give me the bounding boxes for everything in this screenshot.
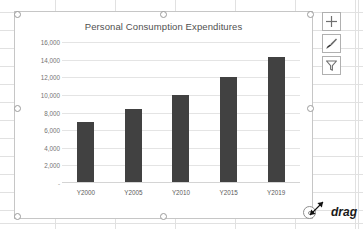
bar-slot [62, 42, 110, 183]
plus-icon [325, 15, 338, 28]
brush-icon [325, 37, 338, 50]
x-tick-label-y2000: Y2000 [62, 189, 110, 201]
drag-annotation-label: drag [331, 205, 357, 219]
y-tick-label: 16,000 [41, 39, 60, 46]
x-tick-label-y2010: Y2010 [157, 189, 205, 201]
resize-handle-middle-right[interactable] [307, 105, 314, 112]
y-tick-label: 6,000 [44, 127, 60, 134]
bar-slot [252, 42, 300, 183]
bar-slot [205, 42, 253, 183]
funnel-icon [325, 59, 338, 72]
bar-y2019[interactable] [268, 57, 285, 183]
y-tick-label: 8,000 [44, 109, 60, 116]
chart-side-buttons [322, 12, 342, 78]
x-axis-line [62, 182, 300, 183]
x-tick-label-y2019: Y2019 [252, 189, 300, 201]
chart-title: Personal Consumption Expenditures [15, 21, 312, 32]
screenshot-root: Personal Consumption Expenditures 16,000… [0, 0, 363, 229]
x-tick-label-y2015: Y2015 [205, 189, 253, 201]
x-tick-label-y2005: Y2005 [110, 189, 158, 201]
resize-handle-top-center[interactable] [160, 11, 167, 18]
resize-diagonal-cursor [306, 198, 330, 222]
chart-styles-button[interactable] [322, 34, 341, 53]
bar-slot [110, 42, 158, 183]
plot-area[interactable] [62, 42, 300, 183]
bar-y2015[interactable] [220, 77, 237, 183]
x-axis-labels: Y2000 Y2005 Y2010 Y2015 Y2019 [62, 189, 300, 201]
resize-handle-bottom-left[interactable] [14, 213, 21, 220]
bar-y2010[interactable] [172, 95, 189, 183]
y-tick-label: 14,000 [41, 56, 60, 63]
y-tick-label: 4,000 [44, 144, 60, 151]
chart-object[interactable]: Personal Consumption Expenditures 16,000… [14, 11, 313, 219]
resize-handle-top-left[interactable] [14, 11, 21, 18]
chart-filters-button[interactable] [322, 56, 341, 75]
y-tick-label: 12,000 [41, 74, 60, 81]
resize-handle-top-right[interactable] [307, 11, 314, 18]
y-axis-labels: 16,000 14,000 12,000 10,000 8,000 6,000 … [21, 42, 60, 183]
y-tick-label: - [58, 180, 60, 187]
bar-y2000[interactable] [77, 122, 94, 183]
bar-slot [157, 42, 205, 183]
bar-series[interactable] [62, 42, 300, 183]
y-tick-label: 10,000 [41, 91, 60, 98]
resize-handle-middle-left[interactable] [14, 105, 21, 112]
resize-handle-bottom-center[interactable] [160, 213, 167, 220]
chart-elements-button[interactable] [322, 12, 341, 31]
bar-y2005[interactable] [125, 109, 142, 183]
y-tick-label: 2,000 [44, 162, 60, 169]
